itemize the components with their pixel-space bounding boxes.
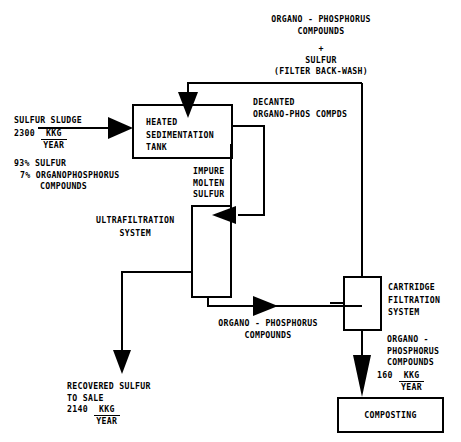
composting-label: COMPOSTING bbox=[338, 409, 443, 422]
sulfur-sludge-unit: KKG YEAR bbox=[41, 128, 67, 151]
filter-back-wash-stream-label: ORGANO - PHOSPHORUS COMPOUNDS + SULFUR (… bbox=[236, 14, 406, 78]
tank-label-line1: HEATED bbox=[146, 116, 214, 129]
organo-phos-mid-label: ORGANO - PHOSPHORUS COMPOUNDS bbox=[198, 318, 338, 341]
backwash-line1: ORGANO - PHOSPHORUS bbox=[236, 14, 406, 26]
backwash-plus: + bbox=[236, 43, 406, 55]
recovered-line2: TO SALE bbox=[67, 393, 151, 405]
decanted-line2: ORGANO-PHOS COMPDS bbox=[253, 109, 347, 121]
cartridge-label-line1: CARTRIDGE bbox=[388, 281, 440, 294]
organo-phos-out-unit: KKG YEAR bbox=[399, 370, 425, 393]
wire-recovered-sulfur bbox=[122, 272, 192, 352]
arrowhead-composting bbox=[353, 355, 371, 397]
organo-out-line3: COMPOUNDS bbox=[387, 357, 439, 369]
impure-line1: IMPURE bbox=[193, 166, 224, 178]
impure-line3: SULFUR bbox=[193, 189, 224, 201]
composition-line1: 93% SULFUR bbox=[14, 158, 119, 170]
arrowhead-organo-phos-mid bbox=[253, 296, 278, 316]
box-cartridge-filtration-system bbox=[344, 277, 381, 330]
arrowhead-recovered-sulfur bbox=[113, 350, 131, 374]
sulfur-sludge-unit-den: YEAR bbox=[41, 140, 67, 151]
composting-label-line1: COMPOSTING bbox=[338, 409, 443, 422]
organo-mid-line1: ORGANO - PHOSPHORUS bbox=[198, 318, 338, 330]
decanted-stream-label: DECANTED ORGANO-PHOS COMPDS bbox=[253, 97, 347, 120]
organo-phos-out-label: ORGANO - PHOSPHORUS COMPOUNDS bbox=[387, 334, 439, 369]
organo-phos-out-amount: 160 bbox=[377, 370, 399, 380]
arrowhead-sulfur-sludge bbox=[108, 117, 133, 139]
recovered-sulfur-unit-den: YEAR bbox=[94, 416, 120, 427]
cartridge-label-line3: SYSTEM bbox=[388, 306, 440, 319]
composition-line2: 7% ORGANOPHOSPHORUS bbox=[14, 170, 119, 182]
decanted-line1: DECANTED bbox=[253, 97, 347, 109]
arrowhead-decanted bbox=[212, 206, 236, 224]
organo-out-line1: ORGANO - bbox=[387, 334, 439, 346]
ultrafiltration-label-line2: SYSTEM bbox=[96, 227, 174, 240]
ultrafiltration-label-line1: ULTRAFILTRATION bbox=[96, 214, 174, 227]
backwash-line4: (FILTER BACK-WASH) bbox=[236, 66, 406, 78]
sulfur-sludge-amount: 2300 bbox=[14, 128, 41, 138]
backwash-line2: COMPOUNDS bbox=[236, 26, 406, 38]
sulfur-sludge-rate: 2300 KKG YEAR bbox=[14, 128, 67, 151]
organo-phos-out-unit-den: YEAR bbox=[399, 382, 425, 393]
wire-organo-phos-mid bbox=[208, 297, 362, 306]
composition-line3: COMPOUNDS bbox=[14, 181, 119, 193]
cartridge-label-line2: FILTRATION bbox=[388, 294, 440, 307]
recovered-sulfur-unit: KKG YEAR bbox=[94, 404, 120, 427]
recovered-sulfur-label: RECOVERED SULFUR TO SALE bbox=[67, 381, 151, 404]
process-flow-diagram: HEATED SEDIMENTATION TANK ULTRAFILTRATIO… bbox=[0, 0, 461, 442]
impure-line2: MOLTEN bbox=[193, 178, 224, 190]
wire-decanted bbox=[232, 126, 264, 215]
organo-out-line2: PHOSPHORUS bbox=[387, 346, 439, 358]
recovered-sulfur-rate: 2140 KKG YEAR bbox=[67, 404, 120, 427]
backwash-line3: SULFUR bbox=[236, 55, 406, 67]
tank-label-line2: SEDIMENTATION bbox=[146, 129, 214, 142]
sulfur-sludge-composition: 93% SULFUR 7% ORGANOPHOSPHORUS COMPOUNDS bbox=[14, 158, 119, 193]
sulfur-sludge-unit-num: KKG bbox=[41, 128, 67, 140]
recovered-sulfur-amount: 2140 bbox=[67, 404, 94, 414]
recovered-sulfur-unit-num: KKG bbox=[94, 404, 120, 416]
wire-backwash-top bbox=[188, 83, 362, 92]
impure-molten-sulfur-label: IMPURE MOLTEN SULFUR bbox=[193, 166, 224, 201]
sulfur-sludge-name: SULFUR SLUDGE bbox=[14, 115, 82, 127]
recovered-line1: RECOVERED SULFUR bbox=[67, 381, 151, 393]
organo-phos-out-rate: 160 KKG YEAR bbox=[377, 370, 424, 393]
heated-sedimentation-tank-label: HEATED SEDIMENTATION TANK bbox=[146, 116, 214, 154]
organo-mid-line2: COMPOUNDS bbox=[198, 330, 338, 342]
tank-label-line3: TANK bbox=[146, 141, 214, 154]
ultrafiltration-system-label: ULTRAFILTRATION SYSTEM bbox=[96, 214, 174, 239]
cartridge-filtration-system-label: CARTRIDGE FILTRATION SYSTEM bbox=[388, 281, 440, 319]
organo-phos-out-unit-num: KKG bbox=[399, 370, 425, 382]
